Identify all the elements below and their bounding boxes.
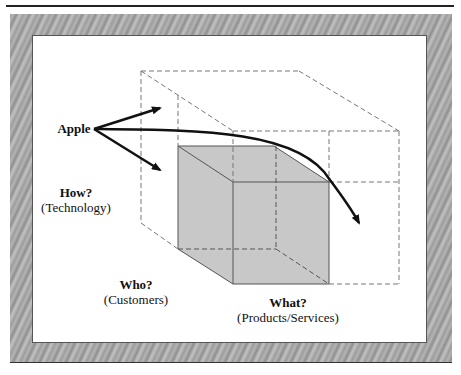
what-label: What? (Products/Services) [226, 295, 350, 325]
arrow-who-icon [94, 129, 160, 170]
what-title: What? [226, 295, 350, 310]
apple-label: Apple [52, 121, 96, 136]
arrow-how-icon [94, 108, 160, 129]
apple-cube [178, 146, 329, 284]
how-title: How? [30, 185, 122, 200]
who-title: Who? [96, 277, 176, 292]
how-label: How? (Technology) [30, 185, 122, 215]
how-subtitle: (Technology) [30, 200, 122, 215]
who-subtitle: (Customers) [96, 292, 176, 307]
who-label: Who? (Customers) [96, 277, 176, 307]
what-subtitle: (Products/Services) [226, 310, 350, 325]
